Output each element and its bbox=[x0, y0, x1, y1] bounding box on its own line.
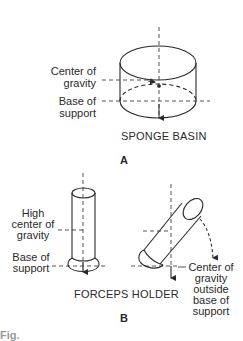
sponge-basin-drawing bbox=[102, 27, 210, 118]
base-label-a: Base of support bbox=[40, 96, 96, 119]
cg-outside-line5: support bbox=[186, 306, 236, 317]
upright-forceps-holder-drawing bbox=[52, 173, 106, 272]
base-label-a-line1: Base of bbox=[40, 96, 96, 107]
figure-caption-fragment: Fig. bbox=[0, 329, 20, 341]
base-label-a-line2: support bbox=[40, 108, 96, 119]
cg-label-a: Center of gravity bbox=[40, 66, 96, 89]
cg-outside-label: Center of gravity outside base of suppor… bbox=[186, 262, 236, 317]
cg-label-a-line2: gravity bbox=[40, 78, 96, 89]
panel-a-letter: A bbox=[120, 155, 128, 166]
base-label-b: Base of support bbox=[8, 252, 54, 274]
panel-b-letter: B bbox=[120, 313, 128, 324]
base-label-b-line2: support bbox=[8, 263, 54, 274]
cg-label-a-line1: Center of bbox=[40, 66, 96, 77]
high-cg-line3: gravity bbox=[8, 230, 58, 241]
forceps-holder-title: FORCEPS HOLDER bbox=[74, 289, 179, 300]
high-cg-label: High center of gravity bbox=[8, 208, 58, 241]
sponge-basin-title: SPONGE BASIN bbox=[121, 131, 207, 142]
